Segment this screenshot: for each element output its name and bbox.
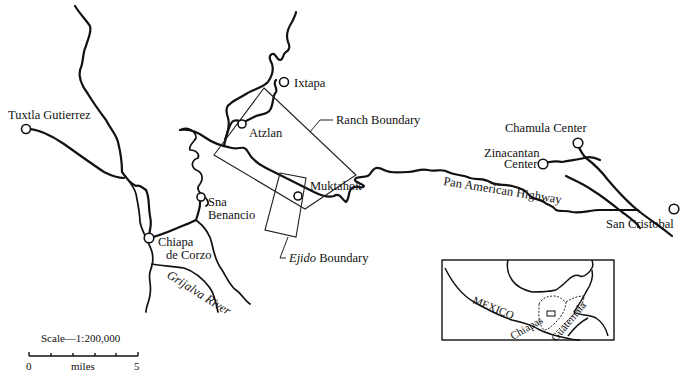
chiapa-west-road bbox=[146, 190, 151, 238]
town-marker-tuxtla-gutierrez[interactable] bbox=[22, 125, 31, 134]
northern-road bbox=[75, 6, 122, 172]
label-ranch-boundary: Ranch Boundary bbox=[336, 113, 421, 127]
label-atzlan: Atzlan bbox=[249, 126, 283, 140]
map-canvas: Tuxtla Gutierrez Ixtapa Atzlan Muktahok … bbox=[0, 0, 690, 379]
town-marker-chiapa-de-corzo[interactable] bbox=[144, 233, 154, 243]
scale-bar: Scale—1:200,000 0 miles 5 bbox=[26, 332, 140, 372]
label-ejido-italic: Ejido bbox=[288, 251, 316, 265]
ejido-boundary bbox=[265, 173, 306, 237]
label-chiapa-de-corzo-line2: de Corzo bbox=[166, 248, 211, 262]
town-marker-atzlan[interactable] bbox=[238, 120, 246, 128]
inset-locator-map: MEXICO Chiapas Guatemala bbox=[442, 260, 614, 343]
label-muktahok: Muktahok bbox=[310, 179, 362, 193]
scale-unit-label: miles bbox=[71, 360, 95, 372]
label-tuxtla-gutierrez: Tuxtla Gutierrez bbox=[8, 108, 91, 122]
inset-study-area-marker bbox=[547, 311, 555, 316]
scale-title: Scale—1:200,000 bbox=[41, 332, 121, 344]
ejido-boundary-leader bbox=[280, 237, 288, 258]
label-sna-benancio-line2: Benancio bbox=[208, 208, 255, 222]
label-pan-american-highway: Pan American Highway bbox=[443, 174, 564, 207]
town-marker-ixtapa[interactable] bbox=[280, 78, 289, 87]
town-marker-muktahok[interactable] bbox=[294, 192, 302, 200]
scale-end-label: 5 bbox=[134, 360, 140, 372]
town-marker-chamula-center[interactable] bbox=[573, 138, 583, 148]
label-ejido-rest: Boundary bbox=[316, 251, 369, 265]
label-ejido-boundary: Ejido Boundary bbox=[288, 251, 369, 265]
label-ixtapa: Ixtapa bbox=[294, 76, 326, 90]
label-sna-benancio-line1: Sna bbox=[208, 195, 227, 209]
scale-start-label: 0 bbox=[26, 360, 32, 372]
label-chamula-center: Chamula Center bbox=[505, 121, 587, 135]
label-san-cristobal: San Cristobal bbox=[606, 217, 674, 231]
tuxtla-road bbox=[30, 129, 124, 178]
label-chiapa-de-corzo-line1: Chiapa bbox=[158, 235, 194, 249]
town-marker-san-cristobal[interactable] bbox=[669, 204, 679, 214]
town-marker-sna-benancio[interactable] bbox=[197, 193, 205, 201]
pan-american-highway bbox=[180, 129, 638, 212]
ranch-boundary-leader bbox=[310, 120, 333, 132]
town-marker-zinacantan-center[interactable] bbox=[538, 159, 548, 169]
label-zinacantan-center-line2: Center bbox=[504, 157, 538, 171]
